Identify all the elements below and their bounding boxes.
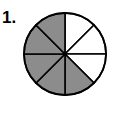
fraction-circle (0, 0, 119, 115)
center-dot (63, 52, 67, 56)
